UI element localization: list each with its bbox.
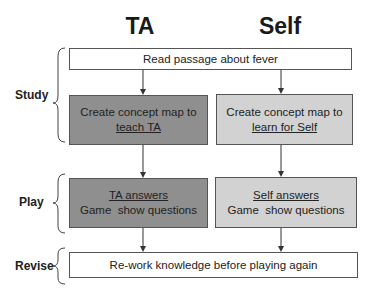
self-play-line2: Game show questions [228,203,345,218]
revise-box: Re-work knowledge before playing again [69,252,358,278]
phase-label-revise: Revise [15,259,54,273]
ta-study-box: Create concept map to teach TA [69,95,208,145]
ta-play-line2: Game show questions [80,203,197,218]
read-passage-box: Read passage about fever [69,48,352,70]
ta-study-line2: teach TA [116,120,161,135]
read-passage-text: Read passage about fever [143,52,278,67]
self-study-box: Create concept map to learn for Self [216,94,353,145]
ta-play-line1: TA answers [109,188,168,203]
play-brace-icon [53,174,65,233]
self-play-line1: Self answers [253,188,319,203]
phase-label-play: Play [19,195,44,209]
study-brace-icon [53,48,65,142]
self-study-line1: Create concept map to [226,105,342,120]
self-play-box: Self answers Game show questions [215,177,357,228]
ta-study-line1: Create concept map to [80,105,196,120]
revise-text: Re-work knowledge before playing again [110,258,318,273]
self-study-line2: learn for Self [252,120,317,135]
ta-play-box: TA answers Game show questions [69,178,208,228]
phase-label-study: Study [15,88,48,102]
revise-brace-icon [53,248,65,284]
